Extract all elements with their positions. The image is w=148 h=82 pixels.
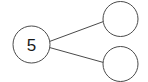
part-top-circle[interactable]	[103, 2, 138, 37]
node-part-top[interactable]	[103, 2, 138, 37]
node-part-bottom[interactable]	[103, 47, 138, 82]
node-whole[interactable]: 5	[13, 26, 50, 63]
whole-value-label: 5	[27, 36, 36, 55]
link-whole-to-part-top	[50, 22, 104, 42]
number-bond-canvas: 5	[0, 0, 148, 82]
number-bond-diagram: 5	[0, 0, 148, 82]
link-whole-to-part-bottom	[50, 48, 104, 63]
part-bottom-circle[interactable]	[103, 47, 138, 82]
